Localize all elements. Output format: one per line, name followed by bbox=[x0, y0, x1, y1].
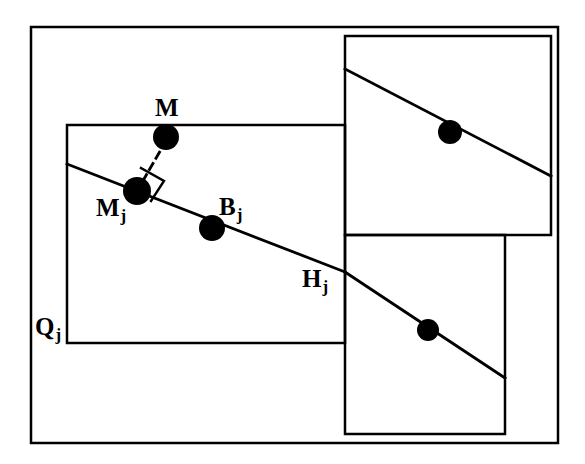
label-point-mj-base: M bbox=[96, 194, 120, 221]
point-M-dot bbox=[153, 124, 179, 150]
diagram-canvas: M Mj Bj Hj Qj bbox=[0, 0, 585, 464]
label-point-mj-subscript: j bbox=[120, 206, 127, 225]
diagram-vector-layer bbox=[0, 0, 585, 464]
label-point-m: M bbox=[155, 95, 180, 124]
label-point-m-base: M bbox=[155, 94, 179, 121]
point-upper-right-dot bbox=[438, 120, 462, 144]
point-lower-right-dot bbox=[417, 319, 439, 341]
label-point-m-subscript bbox=[179, 106, 180, 125]
label-point-bj-base: B bbox=[219, 193, 236, 220]
point-Mj-dot bbox=[123, 177, 151, 205]
label-point-mj: Mj bbox=[96, 195, 126, 224]
label-point-hj-base: H bbox=[302, 265, 321, 292]
label-point-qj: Qj bbox=[35, 314, 61, 343]
label-point-qj-subscript: j bbox=[54, 325, 61, 344]
label-point-hj: Hj bbox=[302, 266, 328, 295]
label-point-bj-subscript: j bbox=[236, 205, 243, 224]
label-point-qj-base: Q bbox=[35, 313, 54, 340]
label-point-hj-subscript: j bbox=[321, 277, 328, 296]
label-point-bj: Bj bbox=[219, 194, 242, 223]
